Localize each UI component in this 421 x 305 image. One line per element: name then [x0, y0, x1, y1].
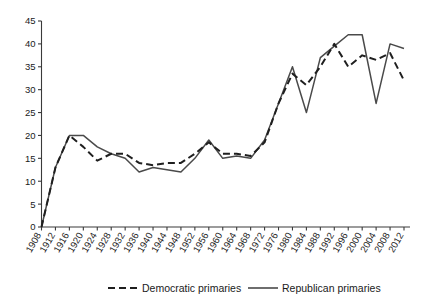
y-tick-label: 40	[25, 38, 36, 49]
series-line-republican	[42, 35, 405, 227]
chart-legend: Democratic primariesRepublican primaries	[108, 282, 381, 294]
line-chart: 051015202530354045 190819121916192019241…	[0, 0, 421, 305]
series-line-democratic	[42, 44, 405, 227]
legend-label-democratic: Democratic primaries	[142, 282, 241, 294]
y-tick-label: 35	[25, 61, 36, 72]
y-tick-label: 45	[25, 15, 36, 26]
legend-label-republican: Republican primaries	[282, 282, 381, 294]
x-tick-label: 2012	[386, 231, 406, 255]
y-tick-label: 30	[25, 84, 36, 95]
y-tick-label: 25	[25, 107, 36, 118]
y-tick-label: 20	[25, 130, 36, 141]
y-tick-label: 10	[25, 176, 36, 187]
y-axis: 051015202530354045	[25, 15, 42, 232]
series-group	[42, 35, 405, 227]
y-tick-labels: 051015202530354045	[25, 15, 36, 232]
y-tick-label: 15	[25, 153, 36, 164]
x-axis: 1908191219161920192419281932193619401944…	[23, 227, 410, 254]
chart-container: 051015202530354045 190819121916192019241…	[0, 0, 421, 305]
x-tick-labels: 1908191219161920192419281932193619401944…	[23, 231, 406, 255]
y-tick-label: 5	[30, 199, 35, 210]
